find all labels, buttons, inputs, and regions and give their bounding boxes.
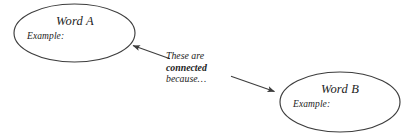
arrow-to-word-b	[231, 76, 275, 91]
diagram-canvas: Word A Example: Word B Example: These ar…	[0, 0, 408, 137]
node-word-b-title: Word B	[280, 82, 400, 97]
edge-label-line-3: because…	[166, 73, 236, 85]
node-word-a-title: Word A	[14, 14, 136, 29]
edge-label-line-2-connected: connected	[166, 62, 236, 74]
arrow-to-word-a	[133, 46, 170, 59]
edge-label-line-1: These are	[166, 50, 236, 62]
node-word-a-example-label: Example:	[14, 31, 100, 41]
edge-label: These are connected because…	[166, 50, 236, 85]
node-word-b-example-label: Example:	[280, 99, 366, 109]
